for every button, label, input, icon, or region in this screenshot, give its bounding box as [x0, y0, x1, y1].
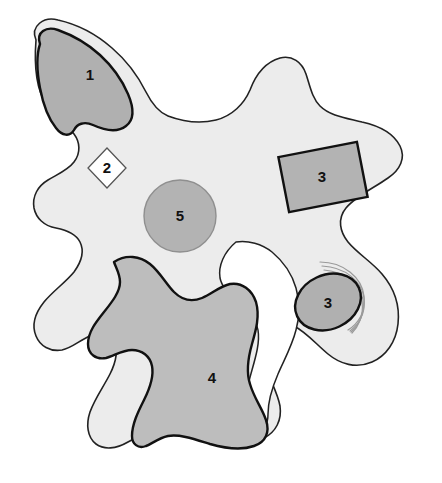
- region-2-label: 2: [103, 159, 111, 176]
- region-3-ellipse-label: 3: [324, 294, 332, 311]
- region-4-label: 4: [208, 369, 217, 386]
- region-1-label: 1: [86, 66, 94, 83]
- region-3-rect-label: 3: [318, 168, 326, 185]
- figure-root: 4 5 1 2 3 3: [0, 0, 442, 483]
- region-1-group[interactable]: 1: [37, 29, 132, 135]
- region-5-label: 5: [176, 207, 184, 224]
- diagram-canvas: 4 5 1 2 3 3: [0, 0, 442, 483]
- region-1-shape[interactable]: [37, 29, 132, 135]
- region-5-group[interactable]: 5: [144, 180, 216, 252]
